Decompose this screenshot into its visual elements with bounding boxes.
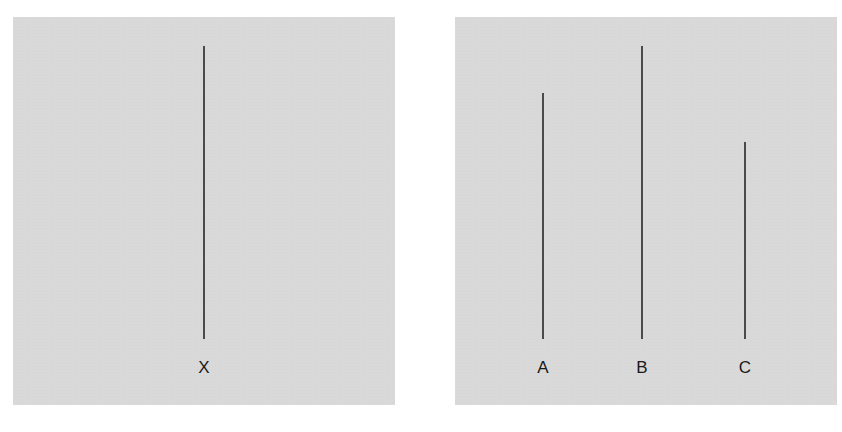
line-x [203, 46, 205, 339]
standard-line-card: X [13, 17, 395, 405]
label-c: C [739, 358, 751, 378]
label-a: A [537, 358, 548, 378]
label-x: X [198, 358, 209, 378]
line-b [641, 46, 643, 339]
line-a [542, 93, 544, 339]
line-c [744, 142, 746, 339]
label-b: B [636, 358, 647, 378]
comparison-lines-card: A B C [455, 17, 837, 405]
